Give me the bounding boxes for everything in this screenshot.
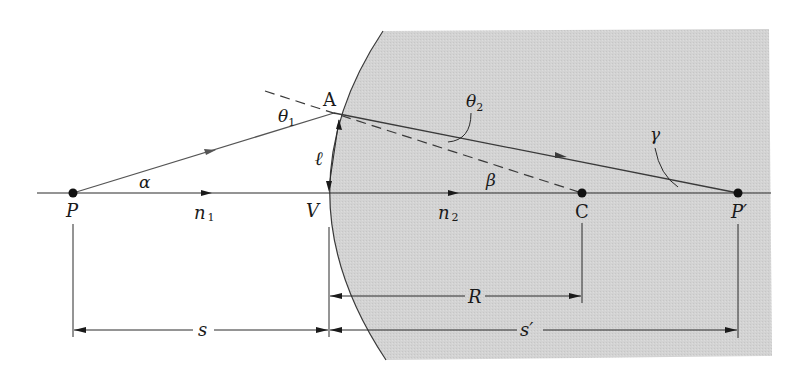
label-p-prime: P′ (730, 201, 747, 222)
point-p (69, 189, 78, 198)
s-prime-arrow-left-icon (330, 327, 342, 333)
refraction-diagram: P V C P′ A α β γ θ1 θ2 n1 n2 ℓ s R s′ (0, 0, 802, 385)
label-s-prime: s′ (520, 319, 533, 340)
s-arrow-right-icon (316, 327, 328, 333)
point-c (578, 189, 587, 198)
label-s: s (198, 319, 207, 340)
point-p-prime (734, 189, 743, 198)
radius-arrow-left-icon (330, 293, 342, 299)
label-r: R (467, 286, 482, 307)
medium-2-region (330, 29, 772, 360)
label-n1: n1 (194, 202, 215, 224)
label-theta1: θ1 (278, 106, 295, 129)
axis-arrow-n1-icon (201, 190, 212, 196)
s-arrow-left-icon (74, 327, 86, 333)
incident-ray-arrow-icon (204, 149, 216, 155)
label-a: A (322, 89, 337, 110)
label-v: V (306, 200, 321, 221)
label-alpha: α (139, 172, 151, 192)
label-gamma: γ (650, 124, 661, 144)
label-c: C (575, 201, 589, 222)
label-ell: ℓ (315, 147, 323, 169)
label-beta: β (485, 170, 496, 190)
label-p: P (65, 200, 79, 221)
